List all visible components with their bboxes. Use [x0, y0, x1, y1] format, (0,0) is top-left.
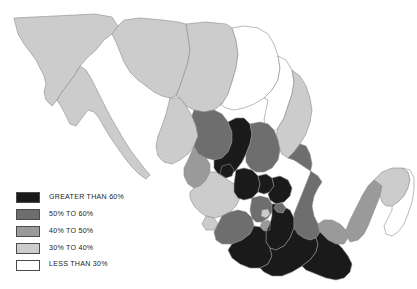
legend-swatch-gt60: [16, 192, 40, 203]
legend-label-30-40: 30% TO 40%: [49, 245, 93, 252]
legend-item-gt60: GREATER THAN 60%: [16, 190, 146, 204]
legend-label-lt30: LESS THAN 30%: [49, 261, 108, 268]
legend-label-50-60: 50% TO 60%: [49, 211, 93, 218]
map-legend: GREATER THAN 60% 50% TO 60% 40% TO 50% 3…: [16, 190, 146, 275]
choropleth-map-figure: GREATER THAN 60% 50% TO 60% 40% TO 50% 3…: [0, 0, 417, 289]
region-colima: [202, 216, 218, 230]
legend-label-gt60: GREATER THAN 60%: [49, 194, 124, 201]
region-guanajuato: [234, 168, 260, 200]
legend-swatch-lt30: [16, 260, 40, 271]
region-baja-california-sur: [57, 66, 150, 179]
legend-swatch-50-60: [16, 209, 40, 220]
legend-item-lt30: LESS THAN 30%: [16, 258, 146, 272]
region-campeche: [346, 178, 382, 242]
region-mexico: [250, 196, 272, 222]
legend-swatch-40-50: [16, 226, 40, 237]
region-sonora: [112, 18, 190, 98]
legend-swatch-30-40: [16, 243, 40, 254]
legend-item-40-50: 40% TO 50%: [16, 224, 146, 238]
legend-label-40-50: 40% TO 50%: [49, 228, 93, 235]
legend-item-30-40: 30% TO 40%: [16, 241, 146, 255]
region-durango: [192, 110, 232, 160]
legend-item-50-60: 50% TO 60%: [16, 207, 146, 221]
